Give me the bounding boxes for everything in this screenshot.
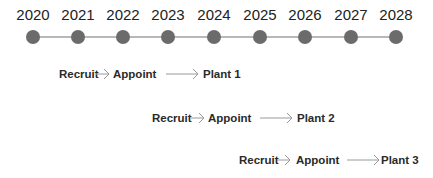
short-arrow-icon (276, 150, 292, 170)
timeline-dot-2026 (298, 30, 312, 44)
step-recruit: Recruit (59, 64, 99, 84)
timeline-dot-2025 (253, 30, 267, 44)
year-label-2024: 2024 (197, 6, 230, 23)
long-arrow-icon (346, 150, 381, 170)
year-label-2022: 2022 (106, 6, 139, 23)
process-row-2: Recruit Appoint Plant 2 (0, 108, 433, 128)
year-label-2025: 2025 (243, 6, 276, 23)
timeline-dot-2020 (26, 30, 40, 44)
short-arrow-icon (190, 108, 206, 128)
step-appoint: Appoint (296, 150, 339, 170)
long-arrow-icon (259, 108, 294, 128)
process-row-1: Recruit Appoint Plant 1 (0, 64, 433, 84)
process-row-3: Recruit Appoint Plant 3 (0, 150, 433, 170)
year-label-2028: 2028 (379, 6, 412, 23)
year-label-2021: 2021 (61, 6, 94, 23)
step-plant: Plant 2 (297, 108, 335, 128)
timeline-dot-2023 (161, 30, 175, 44)
year-label-2026: 2026 (288, 6, 321, 23)
timeline-dot-2021 (71, 30, 85, 44)
year-label-2020: 2020 (16, 6, 49, 23)
step-plant: Plant 1 (203, 64, 241, 84)
step-appoint: Appoint (113, 64, 156, 84)
step-plant: Plant 3 (381, 150, 419, 170)
short-arrow-icon (95, 64, 111, 84)
year-label-2023: 2023 (151, 6, 184, 23)
timeline-dot-2028 (389, 30, 403, 44)
step-appoint: Appoint (208, 108, 251, 128)
long-arrow-icon (165, 64, 200, 84)
timeline-dot-2022 (116, 30, 130, 44)
year-label-2027: 2027 (334, 6, 367, 23)
step-recruit: Recruit (239, 150, 279, 170)
timeline-dot-2027 (344, 30, 358, 44)
step-recruit: Recruit (152, 108, 192, 128)
timeline-dot-2024 (207, 30, 221, 44)
